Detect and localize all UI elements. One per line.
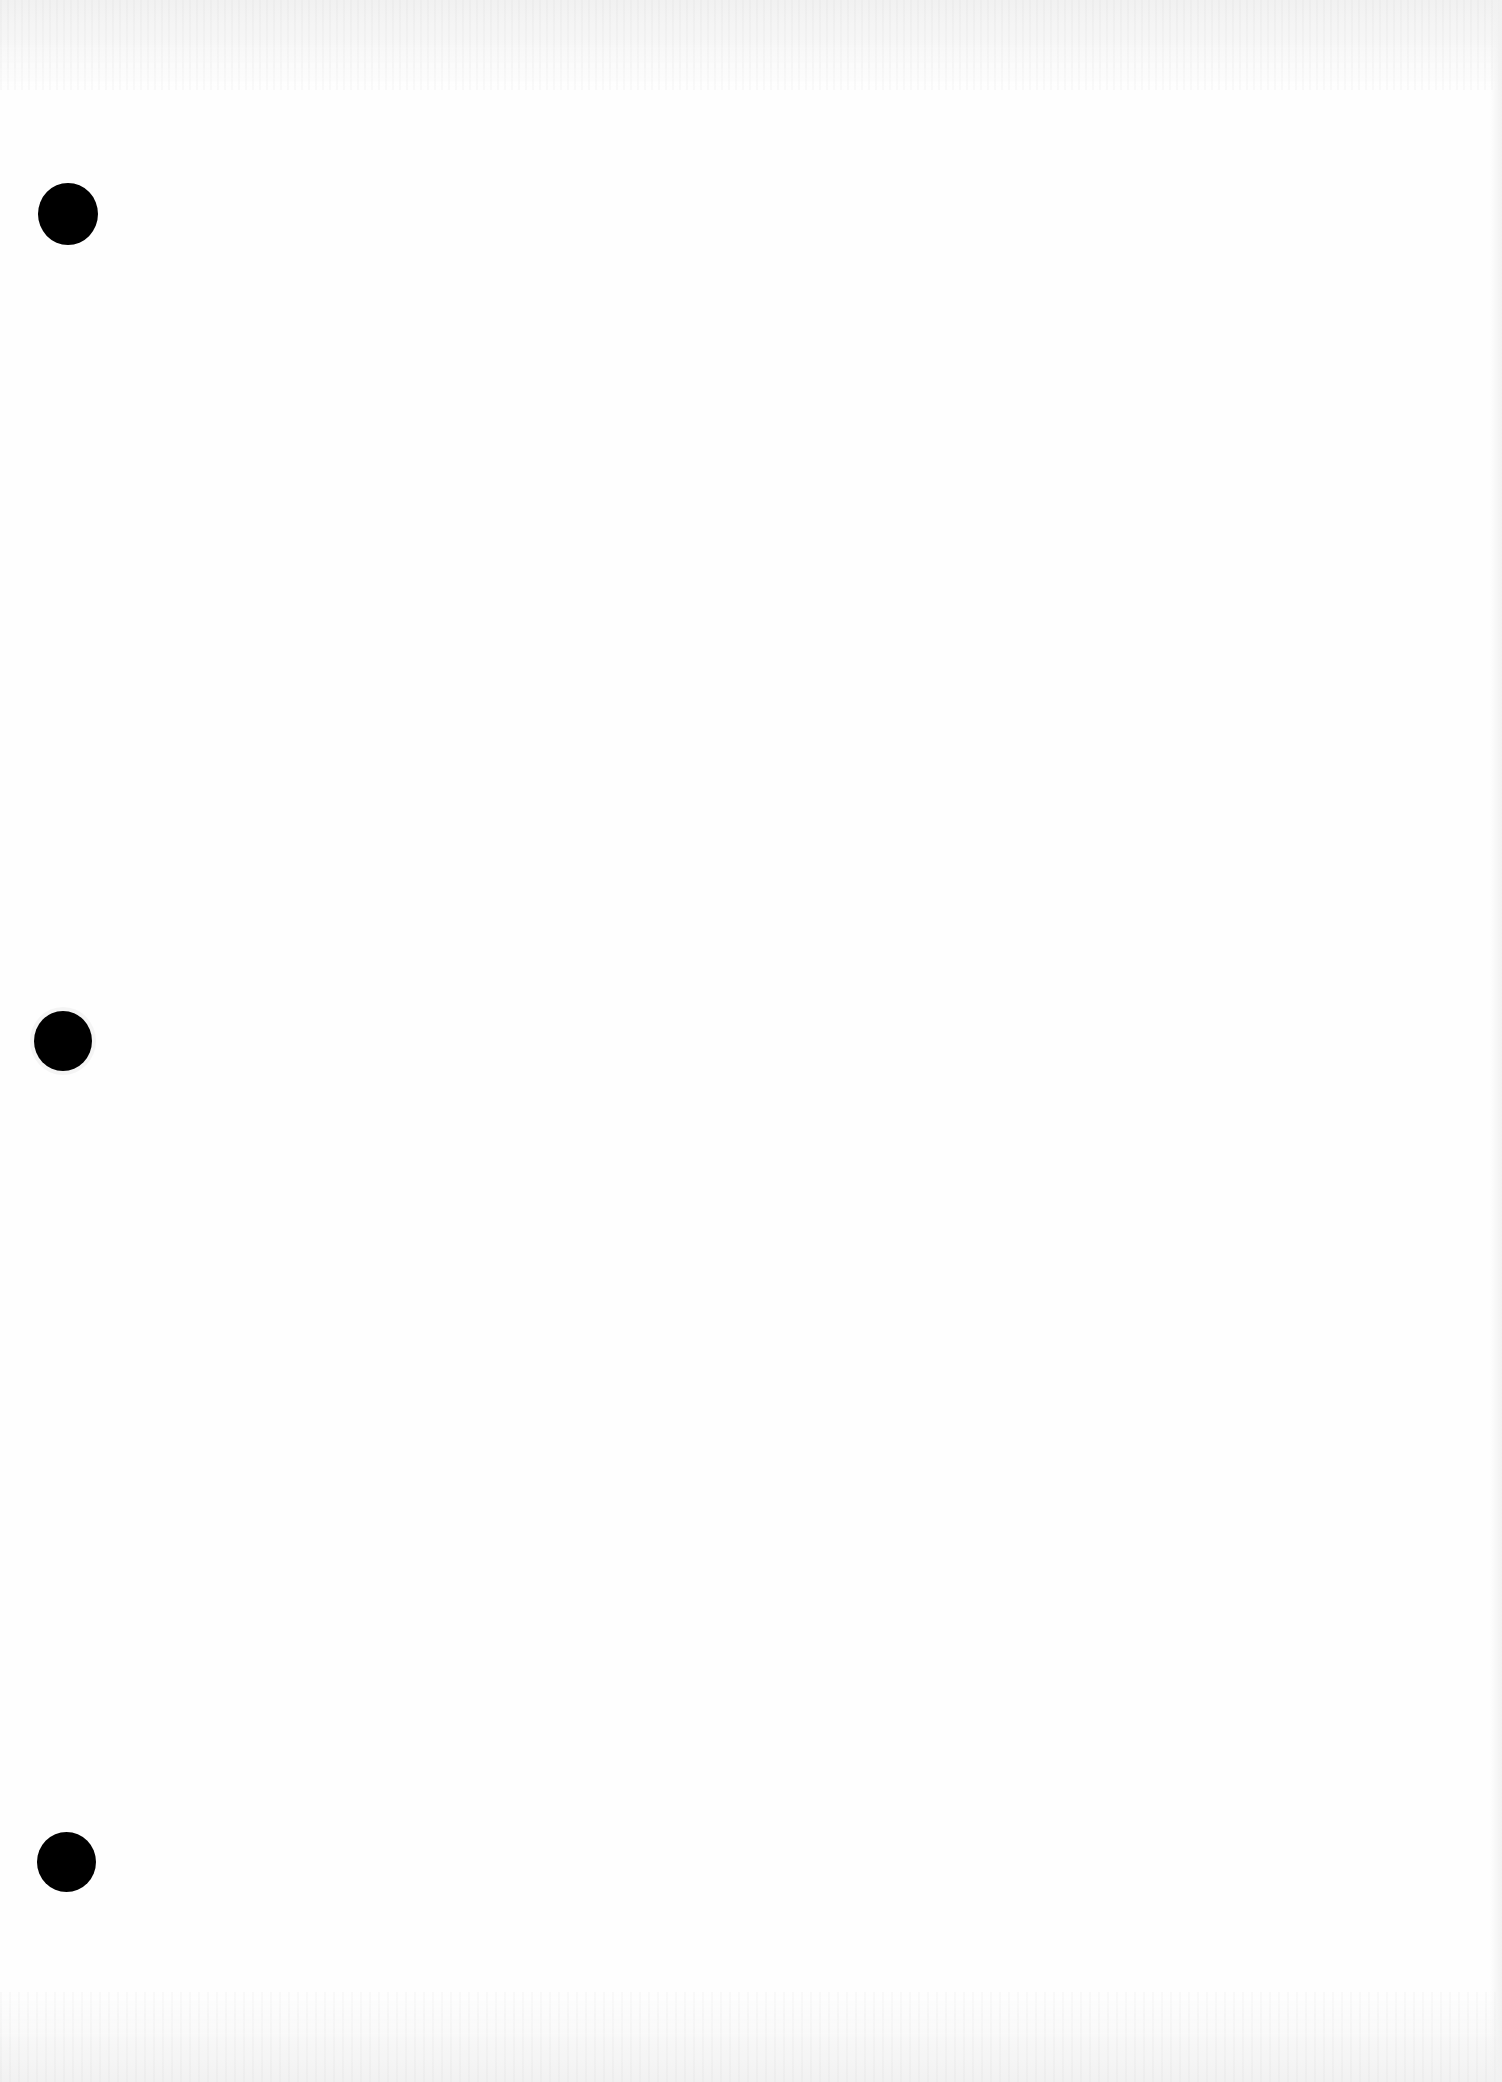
- punch-hole-bottom-icon: [37, 1832, 96, 1892]
- scan-edge-right: [1490, 0, 1502, 2082]
- punch-hole-top-icon: [38, 183, 98, 245]
- scan-noise-bottom: [0, 1992, 1502, 2082]
- scanned-page: [0, 0, 1502, 2082]
- scan-noise-top: [0, 0, 1502, 90]
- punch-hole-middle-icon: [34, 1011, 92, 1071]
